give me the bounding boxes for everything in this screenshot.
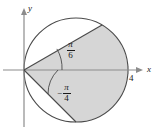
lower-angle-fraction: π 4 <box>63 83 71 103</box>
upper-angle-numerator: π <box>67 40 74 49</box>
x-axis-arrowhead <box>136 67 143 73</box>
upper-angle-label: π 6 <box>66 40 75 60</box>
lower-angle-numerator: π <box>63 83 70 92</box>
lower-angle-label: − π 4 <box>57 83 71 103</box>
y-axis-label: y <box>28 4 32 13</box>
x-tick-label-4: 4 <box>129 74 134 83</box>
polar-region-figure: y x 4 π 6 − π 4 <box>0 0 159 132</box>
lower-angle-denominator: 4 <box>63 94 70 103</box>
figure-canvas <box>0 0 159 132</box>
x-axis-label: x <box>147 65 151 74</box>
y-axis-arrowhead <box>21 8 27 15</box>
upper-angle-denominator: 6 <box>67 51 74 60</box>
upper-angle-fraction: π 6 <box>67 40 75 60</box>
